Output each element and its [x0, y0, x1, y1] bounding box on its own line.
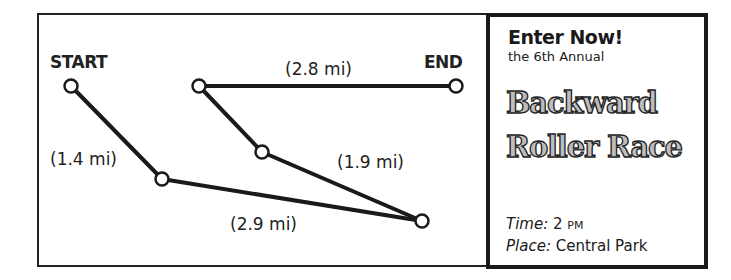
node-5: [416, 215, 429, 228]
place-value: Central Park: [556, 237, 648, 255]
event-time: Time: 2 PM: [506, 215, 583, 233]
event-info-panel: Enter Now! the 6th Annual Backward Rolle…: [486, 13, 708, 269]
annual-subheading: the 6th Annual: [508, 49, 604, 64]
node-2: [156, 173, 169, 186]
end-label: END: [424, 52, 463, 72]
start-label: START: [50, 52, 108, 72]
distance-label-2-9: (2.9 mi): [230, 214, 297, 234]
time-key: Time:: [506, 215, 548, 233]
place-key: Place:: [506, 237, 551, 255]
segment-n4-n3: [199, 86, 262, 152]
node-start: [65, 80, 78, 93]
time-suffix: PM: [567, 219, 583, 232]
event-title-line1: Backward: [506, 89, 657, 118]
enter-now-heading: Enter Now!: [508, 26, 623, 48]
event-place: Place: Central Park: [506, 237, 648, 255]
node-4: [256, 146, 269, 159]
distance-label-1-9: (1.9 mi): [337, 152, 404, 172]
node-end: [450, 80, 463, 93]
distance-label-1-4: (1.4 mi): [50, 149, 117, 169]
node-3: [193, 80, 206, 93]
distance-label-2-8: (2.8 mi): [285, 59, 352, 79]
event-title-line2: Roller Race: [506, 133, 682, 162]
time-value: 2: [553, 215, 563, 233]
